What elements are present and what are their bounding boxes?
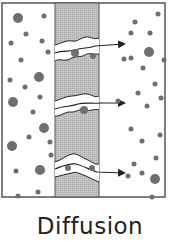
particle-right (158, 133, 163, 138)
particle-right (136, 91, 141, 96)
particle-right (153, 82, 158, 87)
particle-right (159, 96, 164, 101)
particle-left (40, 39, 45, 44)
particle-left (39, 123, 49, 133)
particle-left (9, 41, 14, 46)
particle-right (162, 58, 167, 63)
particle-right (144, 47, 154, 57)
particle-left (34, 72, 44, 82)
particle-left (8, 78, 13, 83)
particle-left (42, 14, 47, 19)
particle-right (154, 156, 159, 161)
particle-left (8, 97, 18, 107)
particle-left (16, 194, 21, 199)
particle-left (31, 110, 36, 115)
particle-right (150, 174, 160, 184)
particle-left (14, 169, 19, 174)
particle-left (27, 135, 32, 140)
particle-right (126, 174, 131, 179)
particle-right (150, 195, 155, 200)
particle-left (13, 13, 23, 23)
particle-in-channel (90, 53, 96, 59)
particle-left (46, 50, 51, 55)
particle-left (7, 141, 17, 151)
particle-right (129, 127, 134, 132)
particle-left (36, 190, 41, 195)
particle-right (140, 171, 145, 176)
particle-left (49, 153, 54, 158)
particle-right (156, 12, 161, 17)
particle-right (132, 162, 137, 167)
particle-left (19, 58, 24, 63)
particle-right (145, 104, 150, 109)
particle-right (140, 139, 145, 144)
diffusion-diagram (0, 0, 180, 242)
particle-left (48, 140, 53, 145)
particle-right (129, 56, 134, 61)
particle-in-channel (89, 165, 95, 171)
particle-left (35, 165, 45, 175)
particle-in-channel (80, 106, 88, 114)
particle-right (129, 31, 134, 36)
particle-right (122, 57, 127, 62)
particle-right (133, 20, 138, 25)
particle-left (24, 32, 29, 37)
particle-in-channel (71, 49, 79, 57)
particle-right (148, 31, 153, 36)
particle-left (38, 95, 43, 100)
particle-left (23, 85, 28, 90)
particle-in-channel (65, 165, 71, 171)
diagram-caption: Diffusion (0, 213, 180, 239)
particle-right (141, 66, 146, 71)
particle-right (116, 99, 121, 104)
